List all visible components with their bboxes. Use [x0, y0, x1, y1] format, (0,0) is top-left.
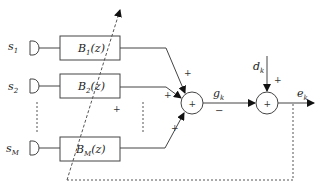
sign-b1: +: [184, 68, 192, 78]
sign-extra: +: [113, 104, 121, 114]
input-sM: sM: [6, 141, 60, 157]
filter-b2: B2(z): [60, 74, 120, 98]
svg-text:s1: s1: [8, 40, 18, 55]
gk-label: gk: [213, 87, 224, 102]
gk-sign: −: [215, 105, 223, 116]
dk-sign: +: [274, 75, 282, 85]
dk-label: dk: [253, 60, 264, 75]
sign-bM: +: [171, 123, 179, 133]
svg-text:+: +: [264, 99, 272, 109]
svg-text:B2(z): B2(z): [77, 80, 105, 95]
input-s1: s1: [8, 40, 60, 55]
svg-text:sM: sM: [6, 142, 20, 157]
svg-text:BM(z): BM(z): [75, 143, 106, 158]
summing-junction-2: +: [256, 92, 278, 114]
microphone-icon: [30, 41, 39, 55]
microphone-icon: [30, 141, 39, 155]
filter-bM: BM(z): [60, 137, 120, 161]
svg-text:s2: s2: [8, 80, 19, 95]
input-s2: s2: [8, 79, 60, 95]
microphone-icon: [30, 79, 39, 93]
block-diagram: s1 s2 sM B1(z) B2(z) BM(z) + + + +: [0, 0, 327, 194]
summing-junction-1: +: [181, 92, 203, 114]
ek-label: ek: [297, 87, 308, 102]
b2-to-sum1: [120, 87, 181, 98]
sign-b2: +: [164, 90, 172, 100]
b1-to-sum1: [120, 48, 185, 93]
svg-text:+: +: [189, 99, 197, 109]
svg-text:B1(z): B1(z): [77, 42, 105, 57]
